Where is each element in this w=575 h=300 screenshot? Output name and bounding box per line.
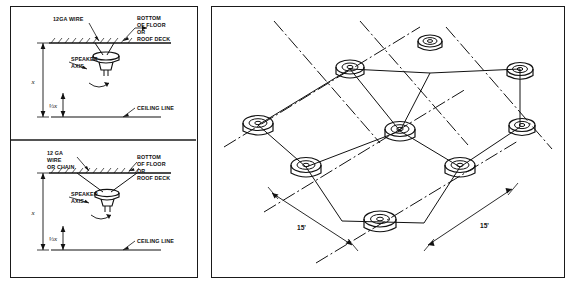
upper-dim-third-label: ⅓x [49,102,58,110]
lower-ceiling-label: CEILING LINE [137,238,174,244]
upper-deck-label-1: BOTTOM [137,15,161,21]
upper-detail: x ⅓x 12GA WIRE BOTTOM OF FLOOR [30,15,174,117]
figure-root: x ⅓x 12GA WIRE BOTTOM OF FLOOR [0,0,575,300]
left-spacing-label: 15' [297,224,306,231]
lower-deck-label-4: ROOF DECK [137,175,170,181]
speaker-grid-svg: 15' 15' [212,7,563,276]
upper-deck-label-4: ROOF DECK [137,36,170,42]
lower-wire-label-3: OR CHAIN [47,164,74,170]
lower-wire-label-1: 12 GA [47,150,63,156]
dimension-left: 15' [268,187,358,251]
upper-deck-label-2: OF FLOOR [137,22,166,28]
ceiling-leader-lower [123,241,135,250]
lower-detail: x ⅓x 12 GA WIRE OR CHAIN BOTTOM OF FLOOR [30,150,174,250]
lower-dim-third-label: ⅓x [49,235,58,243]
upper-axis-label-1: SPEAKER [71,56,98,62]
speaker-top-ellipse-lower [95,189,119,196]
ceiling-leader [123,108,135,117]
lower-axis-label-1: SPEAKER [71,191,98,197]
lower-deck-label-1: BOTTOM [137,154,161,160]
deck-hatch [51,38,132,43]
lower-axis-label-2: AXIS [71,198,84,204]
arc-arrowhead [104,82,109,87]
mounting-detail-panel: x ⅓x 12GA WIRE BOTTOM OF FLOOR [10,6,198,278]
speaker-node [509,119,535,136]
speaker-node [418,35,442,51]
deck-leader [123,28,135,41]
upper-ceiling-label: CEILING LINE [137,105,174,111]
grid-axes-ascending [224,27,518,263]
upper-wire-label: 12GA WIRE [53,16,84,22]
mounting-detail-svg: x ⅓x 12GA WIRE BOTTOM OF FLOOR [11,7,196,276]
wire-left [77,173,103,192]
upper-deck-label-3: OR [137,29,145,35]
speaker-grid-layout-panel: 15' 15' [211,6,565,278]
grid-connectors [258,69,520,223]
lower-deck-label-3: OR [137,168,145,174]
right-spacing-label: 15' [480,222,489,229]
grid-axes-descending [274,21,552,149]
upper-dim-x-label: x [30,78,35,86]
lower-dim-x-label: x [30,209,35,217]
dimension-right: 15' [424,183,518,251]
upper-axis-label-2: AXIS [71,63,84,69]
lower-wire-label-2: WIRE [47,157,62,163]
wire-right [111,173,137,192]
lower-deck-label-2: OF FLOOR [137,161,166,167]
